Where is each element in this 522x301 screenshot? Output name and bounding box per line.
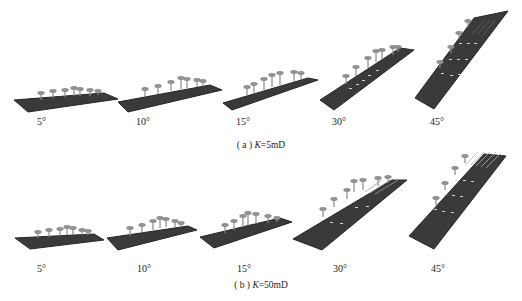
panel-b-plates — [0, 150, 522, 301]
plate-b-5deg — [15, 226, 104, 249]
plate-a-10deg — [118, 77, 222, 112]
angle-label: 10° — [137, 263, 151, 274]
plate-a-30deg — [320, 46, 414, 110]
plate-a-45deg — [415, 11, 508, 109]
plate-b-45deg — [409, 152, 506, 249]
caption-a: ( a ) K=5mD — [181, 140, 341, 150]
plate-a-15deg — [223, 71, 318, 110]
plate-b-30deg — [293, 176, 407, 250]
angle-label: 5° — [37, 263, 46, 274]
panel-a: 5° 10° 15° 30° 45° ( a ) K=5mD — [0, 0, 522, 150]
angle-label: 45° — [431, 263, 445, 274]
panel-b: 5° 10° 15° 30° 45° ( b ) K=50mD — [0, 150, 522, 301]
plate-b-10deg — [107, 217, 197, 250]
angle-label: 10° — [136, 116, 150, 127]
caption-b: ( b ) K=50mD — [181, 280, 341, 290]
angle-label: 45° — [430, 116, 444, 127]
angle-label: 15° — [237, 263, 251, 274]
angle-label: 30° — [333, 263, 347, 274]
angle-label: 30° — [332, 116, 346, 127]
angle-label: 5° — [37, 116, 46, 127]
plate-b-15deg — [200, 212, 292, 248]
angle-label: 15° — [236, 116, 250, 127]
panel-a-plates — [0, 0, 522, 150]
plate-a-5deg — [14, 87, 118, 112]
